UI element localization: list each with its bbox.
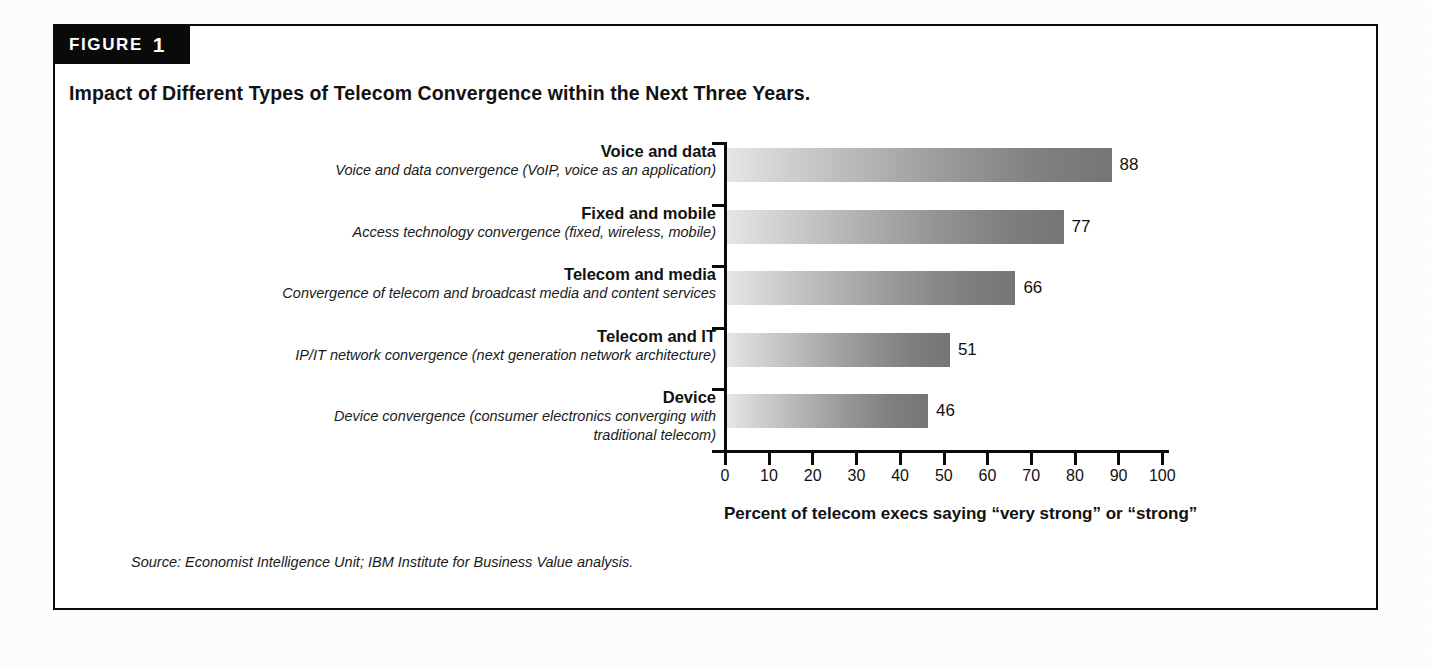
bar-value-label: 88: [1120, 155, 1139, 175]
x-axis-tick: [768, 453, 771, 465]
bar: [727, 271, 1015, 305]
x-axis-tick: [1074, 453, 1077, 465]
x-axis-tick: [811, 453, 814, 465]
bar-row: Telecom and media Convergence of telecom…: [69, 265, 1364, 327]
category-name: Fixed and mobile: [96, 204, 716, 223]
x-axis-tick: [943, 453, 946, 465]
figure-number-tab: FIGURE 1: [55, 26, 190, 64]
x-axis-tick-label: 10: [760, 467, 778, 485]
x-axis-tick-label: 30: [847, 467, 865, 485]
x-axis-ticks: 0 10 20 30 40 50 60 70 80 90 100: [724, 453, 1169, 493]
bar-row: Telecom and IT IP/IT network convergence…: [69, 327, 1364, 389]
category-description: Convergence of telecom and broadcast med…: [96, 285, 716, 303]
x-axis-tick-label: 90: [1110, 467, 1128, 485]
category-description: Access technology convergence (fixed, wi…: [96, 224, 716, 242]
category-name: Telecom and media: [96, 265, 716, 284]
x-axis-tick-label: 20: [804, 467, 822, 485]
x-axis-tick-label: 40: [891, 467, 909, 485]
category-description: Voice and data convergence (VoIP, voice …: [96, 162, 716, 180]
category-description-line2: traditional telecom): [96, 427, 716, 445]
bar-row: Voice and data Voice and data convergenc…: [69, 142, 1364, 204]
category-name: Voice and data: [96, 142, 716, 161]
x-axis-tick-label: 60: [979, 467, 997, 485]
bar: [727, 148, 1112, 182]
bar-with-value: 51: [727, 333, 977, 367]
bar: [727, 333, 950, 367]
x-axis-tick-label: 80: [1066, 467, 1084, 485]
x-axis-tick: [855, 453, 858, 465]
bar-rows: Voice and data Voice and data convergenc…: [69, 142, 1364, 450]
x-axis-tick: [1117, 453, 1120, 465]
bar-with-value: 88: [727, 148, 1139, 182]
category-label-group: Voice and data Voice and data convergenc…: [96, 142, 716, 180]
figure-title: Impact of Different Types of Telecom Con…: [69, 82, 810, 105]
category-description: IP/IT network convergence (next generati…: [96, 347, 716, 365]
x-axis-tick: [1030, 453, 1033, 465]
x-axis-tick-label: 50: [935, 467, 953, 485]
bar-row: Device Device convergence (consumer elec…: [69, 388, 1364, 450]
x-axis-tick-label: 70: [1022, 467, 1040, 485]
category-name: Telecom and IT: [96, 327, 716, 346]
category-name: Device: [96, 388, 716, 407]
bar: [727, 394, 928, 428]
bar-value-label: 66: [1023, 278, 1042, 298]
x-axis-tick: [986, 453, 989, 465]
category-description: Device convergence (consumer electronics…: [96, 408, 716, 426]
figure-container: FIGURE 1 Impact of Different Types of Te…: [53, 24, 1378, 610]
bar-value-label: 51: [958, 340, 977, 360]
x-axis-tick: [1161, 453, 1164, 465]
source-note: Source: Economist Intelligence Unit; IBM…: [131, 554, 633, 570]
bar-chart: Voice and data Voice and data convergenc…: [69, 126, 1364, 596]
x-axis-tick: [899, 453, 902, 465]
bar-row: Fixed and mobile Access technology conve…: [69, 204, 1364, 266]
bar-value-label: 77: [1072, 217, 1091, 237]
category-label-group: Telecom and media Convergence of telecom…: [96, 265, 716, 303]
x-axis-tick-label: 100: [1149, 467, 1176, 485]
x-axis-title: Percent of telecom execs saying “very st…: [724, 504, 1169, 524]
figure-tab-number: 1: [153, 33, 165, 57]
x-axis-tick-label: 0: [721, 467, 730, 485]
category-label-group: Fixed and mobile Access technology conve…: [96, 204, 716, 242]
category-label-group: Device Device convergence (consumer elec…: [96, 388, 716, 444]
x-axis-tick: [724, 453, 727, 465]
bar-with-value: 46: [727, 394, 955, 428]
bar-with-value: 66: [727, 271, 1042, 305]
bar-value-label: 46: [936, 401, 955, 421]
bar-with-value: 77: [727, 210, 1090, 244]
bar: [727, 210, 1064, 244]
category-label-group: Telecom and IT IP/IT network convergence…: [96, 327, 716, 365]
figure-tab-label: FIGURE: [69, 35, 143, 55]
